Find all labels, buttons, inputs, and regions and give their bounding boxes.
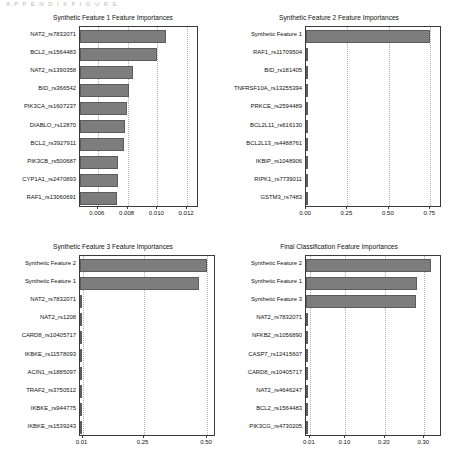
- bar: [306, 138, 308, 151]
- x-tick-label: 0.008: [113, 210, 141, 216]
- bar: [306, 421, 308, 434]
- x-tick-label: 0.01: [68, 439, 96, 445]
- plot-area: [305, 26, 441, 207]
- bar: [306, 277, 417, 290]
- chart-panel-synthetic-feature-2: Synthetic Feature 2 Feature Importances …: [226, 14, 452, 232]
- x-tick-mark: [186, 207, 187, 209]
- y-tick-label: IKBKE_rs944775: [0, 406, 76, 412]
- bar: [80, 192, 117, 205]
- bar: [306, 295, 416, 308]
- bar: [80, 48, 157, 61]
- y-tick-label: IKBKE_rs1539243: [0, 424, 76, 430]
- y-tick-label: TRAF2_rs3750512: [0, 388, 76, 394]
- x-tick-mark: [305, 207, 306, 209]
- bar: [80, 102, 127, 115]
- y-tick-label: BCL2L13_rs4488761: [222, 141, 302, 147]
- y-tick-label: PIK3CB_rs500687: [0, 159, 76, 165]
- y-tick-label: Synthetic Feature 3: [222, 297, 302, 303]
- gridline: [157, 27, 159, 206]
- y-tick-label: RIPK1_rs7739011: [222, 177, 302, 183]
- x-tick-label: 0.010: [142, 210, 170, 216]
- y-tick-label: NAT2_rs1390358: [0, 68, 76, 74]
- bar: [306, 385, 308, 398]
- bar: [306, 30, 430, 43]
- y-tick-label: BID_rs181405: [222, 68, 302, 74]
- x-tick-mark: [206, 436, 207, 438]
- plot-area: [305, 255, 441, 436]
- bar: [80, 295, 82, 308]
- bar: [80, 84, 129, 97]
- bar: [306, 120, 308, 133]
- chart-title: Synthetic Feature 3 Feature Importances: [0, 243, 226, 250]
- bar: [306, 349, 308, 362]
- y-tick-label: Synthetic Feature 1: [0, 279, 76, 285]
- bar: [306, 84, 308, 97]
- bar: [80, 277, 199, 290]
- chart-panel-final-classification: Final Classification Feature Importances…: [226, 243, 452, 461]
- gridline: [347, 27, 349, 206]
- y-tick-label: PRKCE_rs2594489: [222, 104, 302, 110]
- bar: [306, 156, 308, 169]
- y-tick-label: Synthetic Feature 2: [0, 261, 76, 267]
- y-tick-label: PIK3CG_rs4730205: [222, 424, 302, 430]
- chart-title: Synthetic Feature 2 Feature Importances: [226, 14, 452, 21]
- y-tick-label: BCL2L11_rs616130: [222, 123, 302, 129]
- bar: [306, 174, 308, 187]
- y-tick-label: DIABLO_rs12870: [0, 123, 76, 129]
- y-tick-label: RAF1_rs13060691: [0, 195, 76, 201]
- x-tick-mark: [143, 436, 144, 438]
- gridline: [424, 256, 426, 435]
- x-tick-mark: [346, 207, 347, 209]
- bar: [80, 403, 82, 416]
- x-tick-mark: [309, 436, 310, 438]
- y-tick-label: CYP1A1_rs2470893: [0, 177, 76, 183]
- y-tick-label: CASP7_rs12415607: [222, 352, 302, 358]
- y-tick-label: RAF1_rs11709504: [222, 50, 302, 56]
- bar: [80, 259, 207, 272]
- bar: [80, 174, 118, 187]
- bar: [80, 385, 82, 398]
- x-tick-label: 0.012: [172, 210, 200, 216]
- bar: [80, 367, 82, 380]
- y-tick-label: GSTM3_rs7483: [222, 195, 302, 201]
- y-tick-label: IKBKE_rs11578093: [0, 352, 76, 358]
- y-tick-label: Synthetic Feature 2: [222, 261, 302, 267]
- bar: [80, 30, 166, 43]
- scan-header-artifact: A P P E N D I X F I G U R E: [6, 1, 118, 7]
- x-tick-label: 0.10: [330, 439, 358, 445]
- chart-panel-synthetic-feature-1: Synthetic Feature 1 Feature Importances …: [0, 14, 226, 232]
- gridline: [430, 27, 432, 206]
- plot-area: [79, 255, 215, 436]
- bar: [306, 48, 308, 61]
- y-tick-label: BCL2_rs1564483: [0, 50, 76, 56]
- x-tick-label: 0.25: [332, 210, 360, 216]
- bar: [80, 421, 82, 434]
- y-tick-label: BCL2_rs3927911: [0, 141, 76, 147]
- plot-area: [79, 26, 198, 207]
- bar: [80, 66, 133, 79]
- bar: [80, 331, 82, 344]
- x-tick-mark: [384, 436, 385, 438]
- chart-title: Synthetic Feature 1 Feature Importances: [0, 14, 226, 21]
- bar: [306, 403, 308, 416]
- y-tick-label: IKBIP_rs1048906: [222, 159, 302, 165]
- y-tick-label: Synthetic Feature 1: [222, 279, 302, 285]
- bar: [306, 313, 308, 326]
- bar: [80, 156, 118, 169]
- y-tick-label: NAT2_rs7832071: [0, 297, 76, 303]
- bar: [306, 66, 308, 79]
- y-tick-label: BID_rs366542: [0, 86, 76, 92]
- x-tick-mark: [344, 436, 345, 438]
- x-tick-mark: [388, 207, 389, 209]
- y-tick-label: Synthetic Feature 1: [222, 32, 302, 38]
- x-tick-mark: [156, 207, 157, 209]
- x-tick-mark: [127, 207, 128, 209]
- y-tick-label: CARD8_rs10405717: [222, 370, 302, 376]
- x-tick-label: 0.01: [295, 439, 323, 445]
- y-tick-label: ACIN1_rs1885097: [0, 370, 76, 376]
- bar: [80, 120, 125, 133]
- bar: [306, 331, 308, 344]
- bar: [80, 349, 82, 362]
- y-tick-label: NAT2_rs1208: [0, 315, 76, 321]
- x-tick-label: 0.50: [192, 439, 220, 445]
